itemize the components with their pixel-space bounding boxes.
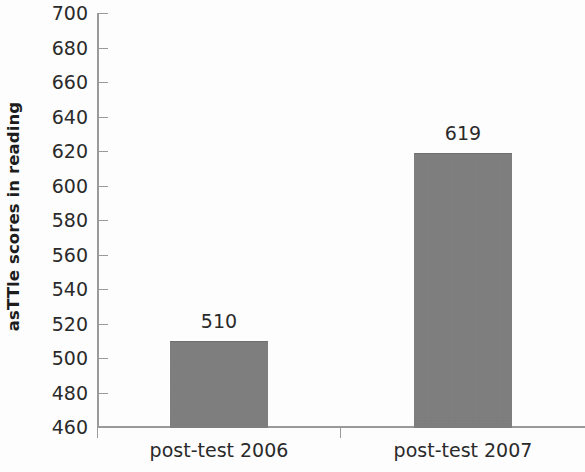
bar-value-label: 619 — [403, 124, 523, 143]
bar-chart: asTTle scores in reading 700680660640620… — [0, 0, 585, 472]
y-axis-tick-label: 640 — [28, 107, 88, 126]
y-axis-tick-mark — [99, 48, 108, 49]
y-axis-tick-label: 540 — [28, 280, 88, 299]
y-axis-tick-label: 600 — [28, 176, 88, 195]
y-axis-tick-label: 680 — [28, 38, 88, 57]
y-axis-tick-mark — [99, 358, 108, 359]
y-axis-title-text: asTTle scores in reading — [5, 101, 24, 330]
y-axis-tick-label: 560 — [28, 245, 88, 264]
y-axis-tick-mark — [99, 82, 108, 83]
y-axis-tick-mark — [99, 393, 108, 394]
y-axis-tick-label: 700 — [28, 4, 88, 23]
y-axis-tick-label: 520 — [28, 314, 88, 333]
y-axis-tick-labels: 700680660640620600580560540520500480460 — [27, 0, 88, 472]
y-axis-title: asTTle scores in reading — [0, 0, 28, 432]
y-axis-tick-label: 500 — [28, 349, 88, 368]
y-axis-tick-mark — [99, 117, 108, 118]
bar-value-label: 510 — [159, 312, 279, 331]
y-axis-tick-label: 620 — [28, 142, 88, 161]
y-axis-tick-mark — [99, 324, 108, 325]
y-axis-tick-mark — [99, 255, 108, 256]
bar — [170, 341, 268, 428]
y-axis-tick-label: 460 — [28, 418, 88, 437]
x-axis-category-label: post-test 2007 — [353, 441, 573, 460]
y-axis-tick-mark — [99, 13, 108, 14]
x-axis-category-divider-tick — [340, 427, 341, 438]
y-axis-tick-label: 660 — [28, 73, 88, 92]
y-axis-tick-mark — [99, 289, 108, 290]
y-axis-tick-mark — [99, 186, 108, 187]
y-axis-tick-mark — [99, 220, 108, 221]
x-axis-category-label: post-test 2006 — [109, 441, 329, 460]
y-axis-tick-label: 580 — [28, 211, 88, 230]
y-axis-tick-label: 480 — [28, 383, 88, 402]
bar — [414, 153, 512, 428]
y-axis-tick-mark — [99, 151, 108, 152]
x-axis-start-tick — [97, 427, 98, 438]
